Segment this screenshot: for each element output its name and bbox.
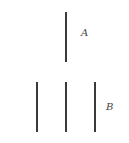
line-b-3 xyxy=(94,82,96,132)
line-a xyxy=(65,12,67,62)
line-b-1 xyxy=(36,82,38,132)
line-b-2 xyxy=(65,82,67,132)
label-a: A xyxy=(81,28,88,38)
label-b: B xyxy=(106,102,113,112)
